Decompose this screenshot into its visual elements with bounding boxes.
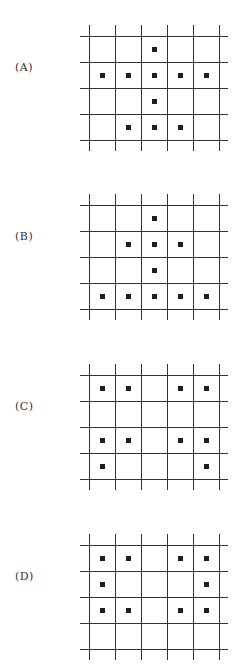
grid-line-vertical [193,25,194,151]
grid-line-vertical [219,534,220,660]
grid-line-horizontal [80,479,228,480]
grid-dot [204,464,209,469]
grid-dot [178,608,183,613]
option-a-grid [80,25,230,151]
grid-line-horizontal [80,453,228,454]
grid-dot [152,216,157,221]
grid-dot [100,608,105,613]
grid-dot [100,438,105,443]
grid-dot [100,294,105,299]
grid-dot [178,556,183,561]
grid-line-vertical [115,194,116,320]
grid-dot [204,582,209,587]
grid-line-vertical [167,25,168,151]
grid-line-horizontal [80,571,228,572]
grid-line-horizontal [80,649,228,650]
grid-dot [152,125,157,130]
grid-line-vertical [141,364,142,490]
grid-dot [178,242,183,247]
grid-line-horizontal [80,36,228,37]
grid-dot [152,47,157,52]
grid-line-horizontal [80,283,228,284]
option-d-label: (D) [15,570,34,583]
grid-line-horizontal [80,205,228,206]
grid-dot [100,73,105,78]
option-a-label: (A) [15,61,33,74]
grid-dot [126,73,131,78]
option-d: (D) [0,534,240,664]
grid-dot [178,125,183,130]
grid-dot [178,73,183,78]
option-c: (C) [0,364,240,494]
grid-dot [100,386,105,391]
grid-line-vertical [89,194,90,320]
option-b-grid [80,194,230,320]
grid-dot [152,73,157,78]
grid-dot [204,73,209,78]
grid-dot [204,386,209,391]
grid-line-vertical [193,534,194,660]
grid-line-vertical [141,25,142,151]
grid-line-horizontal [80,257,228,258]
grid-line-vertical [167,534,168,660]
grid-line-vertical [89,534,90,660]
grid-dot [126,556,131,561]
grid-line-vertical [89,364,90,490]
grid-dot [152,294,157,299]
grid-dot [100,582,105,587]
grid-line-vertical [141,534,142,660]
grid-dot [152,268,157,273]
grid-dot [178,438,183,443]
option-b: (B) [0,194,240,324]
grid-line-horizontal [80,597,228,598]
grid-dot [204,438,209,443]
option-c-label: (C) [15,400,34,413]
grid-dot [178,294,183,299]
grid-dot [204,294,209,299]
grid-dot [126,242,131,247]
grid-dot [126,438,131,443]
grid-dot [204,556,209,561]
option-c-grid [80,364,230,490]
grid-dot [126,125,131,130]
grid-line-horizontal [80,140,228,141]
grid-dot [126,608,131,613]
grid-line-horizontal [80,623,228,624]
grid-dot [178,386,183,391]
grid-dot [152,242,157,247]
grid-dot [100,464,105,469]
grid-dot [100,556,105,561]
grid-line-vertical [115,364,116,490]
grid-line-horizontal [80,401,228,402]
grid-line-vertical [219,364,220,490]
grid-dot [126,386,131,391]
grid-line-horizontal [80,114,228,115]
grid-line-vertical [167,194,168,320]
grid-line-horizontal [80,88,228,89]
grid-line-vertical [219,194,220,320]
grid-line-vertical [167,364,168,490]
grid-line-horizontal [80,375,228,376]
option-d-grid [80,534,230,660]
grid-line-vertical [219,25,220,151]
grid-dot [204,608,209,613]
grid-line-horizontal [80,309,228,310]
grid-line-horizontal [80,545,228,546]
option-a: (A) [0,25,240,155]
grid-line-horizontal [80,231,228,232]
grid-line-vertical [115,25,116,151]
grid-dot [126,294,131,299]
grid-line-horizontal [80,427,228,428]
grid-line-horizontal [80,62,228,63]
grid-line-vertical [193,364,194,490]
option-b-label: (B) [15,230,33,243]
grid-dot [152,99,157,104]
grid-line-vertical [193,194,194,320]
grid-line-vertical [115,534,116,660]
grid-line-vertical [141,194,142,320]
grid-line-vertical [89,25,90,151]
